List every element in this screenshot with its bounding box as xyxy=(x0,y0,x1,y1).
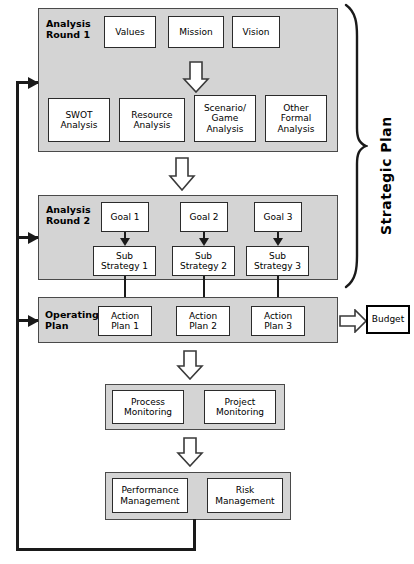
box-action-plan-2: Action Plan 2 xyxy=(176,306,230,336)
box-other-formal-analysis: Other Formal Analysis xyxy=(265,95,327,142)
box-goal-3: Goal 3 xyxy=(254,202,302,232)
box-project-monitoring: Project Monitoring xyxy=(204,390,276,424)
flow-arrow-round1-to-round2 xyxy=(168,157,196,191)
flow-arrow-monitoring-to-management xyxy=(176,437,204,467)
feedback-line-bottom xyxy=(16,548,196,551)
box-action-plan-1: Action Plan 1 xyxy=(98,306,152,336)
box-swot-analysis: SWOT Analysis xyxy=(48,98,110,142)
flow-arrow-round1-internal xyxy=(182,61,210,93)
flow-arrow-operating-to-monitoring xyxy=(176,350,204,380)
arrowhead-goal3-substrategy3 xyxy=(273,238,283,246)
arrowhead-feedback-round1 xyxy=(28,77,39,89)
panel-analysis-round-1-label: Analysis Round 1 xyxy=(46,18,106,40)
box-mission: Mission xyxy=(168,16,224,48)
box-risk-management: Risk Management xyxy=(207,478,283,513)
panel-analysis-round-2-label: Analysis Round 2 xyxy=(46,204,108,226)
arrowhead-feedback-round2 xyxy=(28,232,39,244)
arrowhead-goal1-substrategy1 xyxy=(120,238,130,246)
flow-arrow-operating-to-budget xyxy=(339,309,367,333)
box-sub-strategy-3: Sub Strategy 3 xyxy=(246,246,309,276)
feedback-line-down xyxy=(193,519,196,550)
box-goal-1: Goal 1 xyxy=(101,202,149,232)
box-performance-management: Performance Management xyxy=(112,478,188,513)
box-sub-strategy-1: Sub Strategy 1 xyxy=(93,246,156,276)
box-scenario-game-analysis: Scenario/ Game Analysis xyxy=(194,95,256,142)
box-goal-2: Goal 2 xyxy=(180,202,228,232)
box-values: Values xyxy=(104,16,156,48)
strategic-plan-brace xyxy=(340,2,368,290)
box-process-monitoring: Process Monitoring xyxy=(112,390,184,424)
feedback-line-left xyxy=(16,82,19,550)
box-action-plan-3: Action Plan 3 xyxy=(251,306,305,336)
box-vision: Vision xyxy=(232,16,280,48)
strategic-plan-diagram: Analysis Round 1 Values Mission Vision S… xyxy=(0,0,414,564)
box-sub-strategy-2: Sub Strategy 2 xyxy=(172,246,235,276)
box-resource-analysis: Resource Analysis xyxy=(119,98,185,142)
strategic-plan-label: Strategic Plan xyxy=(378,116,394,235)
arrowhead-goal2-substrategy2 xyxy=(199,238,209,246)
box-budget: Budget xyxy=(366,305,410,334)
arrowhead-feedback-operating xyxy=(28,315,39,327)
